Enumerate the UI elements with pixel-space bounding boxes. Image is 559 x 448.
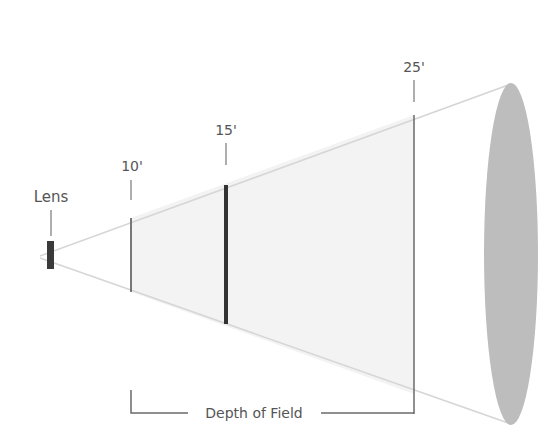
marker-25ft-label: 25' (403, 59, 425, 75)
marker-10ft-label: 10' (121, 158, 143, 174)
dof-bracket-label: Depth of Field (205, 405, 302, 421)
lens-label: Lens (34, 188, 69, 206)
dof-bracket-left (131, 390, 188, 413)
depth-of-field-diagram: Lens 10' 15' 25' Depth of Field (0, 0, 559, 448)
depth-of-field-region (131, 115, 414, 394)
marker-15ft-label: 15' (215, 122, 237, 138)
lens-icon (47, 241, 54, 269)
field-of-view-ellipse (484, 83, 538, 425)
